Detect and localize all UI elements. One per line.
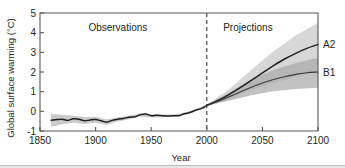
x-tick-label-1850: 1850	[29, 135, 52, 146]
x-tick-label-1950: 1950	[140, 135, 163, 146]
bottom-strip	[0, 166, 345, 168]
y-tick-label-4: 4	[30, 27, 36, 38]
annotation-projections: Projections	[223, 22, 272, 33]
y-tick-label-1: 1	[30, 86, 36, 97]
y-tick-label-5: 5	[30, 8, 36, 19]
y-axis-title: Global surface warming (°C)	[5, 18, 16, 137]
y-tick-label-0: 0	[30, 106, 36, 117]
y-tick-label-3: 3	[30, 47, 36, 58]
annotation-observations: Observations	[88, 22, 147, 33]
x-tick-label-2000: 2000	[196, 135, 219, 146]
series-label-a2: A2	[323, 39, 336, 50]
chart-canvas: 5 4 3 2 1 0 -1 1850 1900 1950 2000 2050 …	[0, 0, 345, 168]
x-axis-title: Year	[171, 152, 190, 163]
series-label-b1: B1	[323, 67, 336, 78]
x-tick-label-2100: 2100	[307, 135, 330, 146]
climate-projection-figure: 5 4 3 2 1 0 -1 1850 1900 1950 2000 2050 …	[0, 0, 345, 168]
y-tick-label-2: 2	[30, 67, 36, 78]
x-tick-label-2050: 2050	[251, 135, 274, 146]
x-tick-label-1900: 1900	[84, 135, 107, 146]
